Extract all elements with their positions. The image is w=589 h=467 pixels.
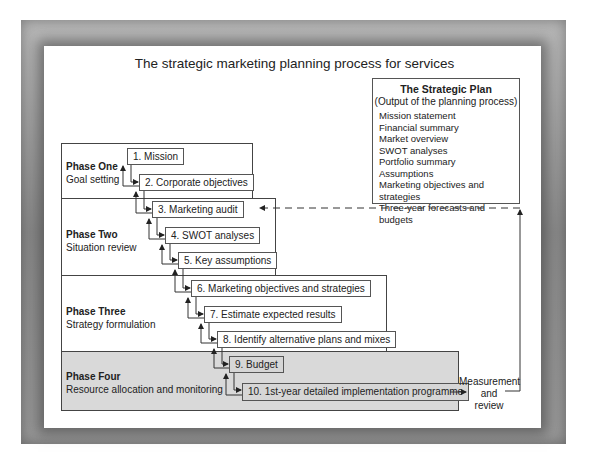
connector-arrows [0,0,589,467]
